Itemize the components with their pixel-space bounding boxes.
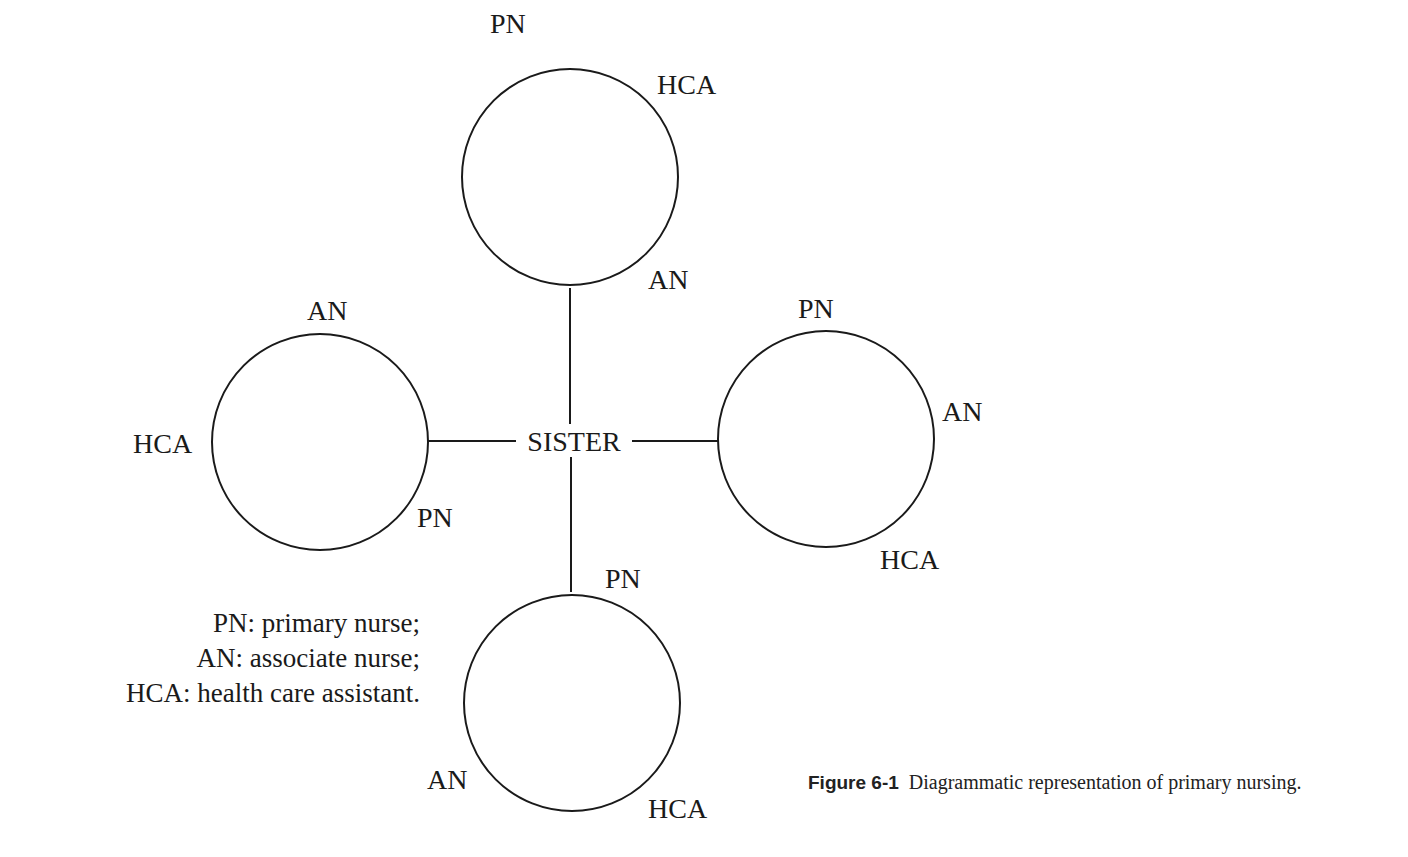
bottom-team-an-label: AN <box>427 764 467 795</box>
legend-item-pn: PN: primary nurse; <box>40 606 420 641</box>
top-team-pn-label: PN <box>490 8 526 39</box>
legend-item-hca: HCA: health care assistant. <box>40 676 420 711</box>
top-team-hca-label: HCA <box>657 69 717 100</box>
team-circle-right <box>718 331 934 547</box>
figure-caption: Figure 6-1 Diagrammatic representation o… <box>808 770 1368 795</box>
abbreviation-legend: PN: primary nurse; AN: associate nurse; … <box>40 606 420 711</box>
left-team-pn-label: PN <box>417 502 453 533</box>
team-circle-left <box>212 334 428 550</box>
top-team-an-label: AN <box>648 264 688 295</box>
bottom-team-pn-label: PN <box>605 563 641 594</box>
caption-text: Diagrammatic representation of primary n… <box>909 771 1302 793</box>
left-team-an-label: AN <box>307 295 347 326</box>
left-team-hca-label: HCA <box>133 428 193 459</box>
team-circle-top <box>462 69 678 285</box>
right-team-pn-label: PN <box>798 293 834 324</box>
primary-nursing-diagram: SISTER PN HCA AN AN HCA PN PN AN HCA PN … <box>0 0 1408 857</box>
right-team-an-label: AN <box>942 396 982 427</box>
right-team-hca-label: HCA <box>880 544 940 575</box>
team-circle-bottom <box>464 595 680 811</box>
center-node-label: SISTER <box>527 426 621 457</box>
figure-number: Figure 6-1 <box>808 772 899 793</box>
bottom-team-hca-label: HCA <box>648 793 708 824</box>
legend-item-an: AN: associate nurse; <box>40 641 420 676</box>
